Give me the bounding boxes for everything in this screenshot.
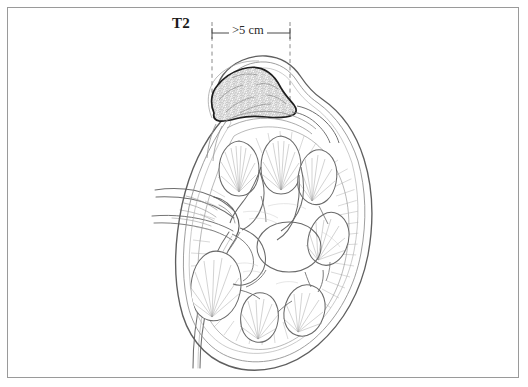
renal-pyramids — [191, 136, 349, 342]
stage-label-t2: T2 — [172, 16, 190, 31]
renal-pyramid — [283, 285, 325, 336]
figure-root: T2 >5 cm — [0, 0, 528, 387]
renal-calyx — [318, 270, 323, 292]
renal-pyramid — [306, 212, 349, 265]
renal-pyramid — [261, 136, 301, 194]
measurement-label: >5 cm — [229, 24, 267, 37]
renal-pyramid — [191, 251, 241, 321]
renal-pyramid — [219, 141, 259, 196]
kidney-illustration — [0, 0, 528, 387]
renal-hilum-vessels — [152, 189, 239, 240]
renal-pyramid — [240, 293, 278, 343]
